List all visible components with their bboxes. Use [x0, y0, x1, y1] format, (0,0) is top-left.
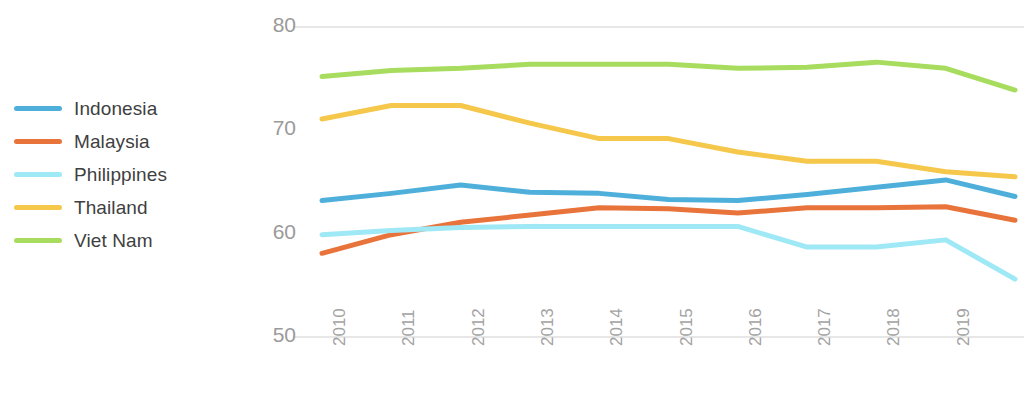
x-axis-tick-label: 2012 [469, 308, 489, 346]
y-axis-tick-label: 60 [250, 220, 296, 244]
chart-series-line [322, 106, 1015, 177]
y-axis-tick-label: 70 [250, 116, 296, 140]
x-axis-tick-label: 2016 [746, 308, 766, 346]
x-axis-tick-label: 2018 [884, 308, 904, 346]
x-axis-tick-label: 2014 [607, 308, 627, 346]
chart-svg [0, 0, 1024, 396]
x-axis-tick-label: 2019 [954, 308, 974, 346]
y-axis-tick-label: 80 [250, 13, 296, 37]
x-axis-tick-label: 2010 [330, 308, 350, 346]
chart-container: IndonesiaMalaysiaPhilippinesThailandViet… [0, 0, 1024, 396]
chart-series-line [322, 62, 1015, 90]
chart-series-line [322, 180, 1015, 201]
x-axis-tick-label: 2011 [399, 309, 419, 346]
x-axis-tick-label: 2017 [815, 308, 835, 346]
chart-plot-area: 5060708020102011201220132014201520162017… [0, 0, 1024, 396]
x-axis-tick-label: 2013 [538, 308, 558, 346]
y-axis-tick-label: 50 [250, 323, 296, 347]
x-axis-tick-label: 2015 [677, 308, 697, 346]
chart-series-line [322, 226, 1015, 279]
